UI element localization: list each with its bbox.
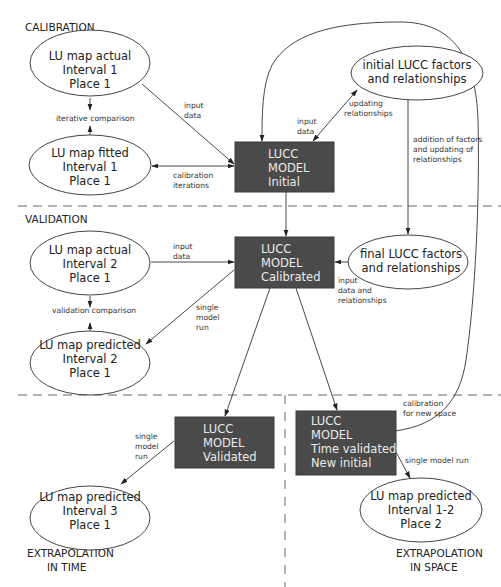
svg-text:LUCC: LUCC: [203, 422, 233, 436]
svg-text:relationships: relationships: [344, 109, 393, 118]
node-initial-factors: initial LUCC factors and relationships: [351, 46, 483, 100]
node-lu-map-fitted-1: LU map fitted Interval 1 Place 1: [29, 135, 151, 195]
svg-text:updating: updating: [349, 99, 383, 108]
svg-text:data: data: [297, 127, 314, 136]
svg-text:input: input: [297, 117, 317, 126]
svg-text:Time validated: Time validated: [310, 442, 396, 456]
edge-single-run-1: [146, 270, 234, 344]
svg-text:New initial: New initial: [311, 456, 371, 470]
label-iterative-comparison: iterative comparison: [56, 114, 135, 123]
svg-text:input: input: [184, 101, 204, 110]
svg-text:run: run: [196, 323, 209, 332]
svg-text:single: single: [196, 303, 219, 312]
label-input-data-1: input data: [184, 101, 204, 120]
node-model-validated: LUCC MODEL Validated: [175, 417, 274, 468]
svg-text:MODEL: MODEL: [261, 256, 303, 270]
svg-text:calibration: calibration: [403, 399, 443, 408]
label-updating-relationships: updating relationships: [344, 99, 393, 118]
diagram-canvas: CALIBRATION VALIDATION EXTRAPOLATION IN …: [0, 0, 501, 587]
svg-text:LUCC: LUCC: [311, 414, 341, 428]
svg-text:Initial: Initial: [268, 175, 300, 189]
svg-text:MODEL: MODEL: [203, 436, 245, 450]
section-extrapolation-space-1: EXTRAPOLATION: [396, 547, 483, 559]
label-input-data-3: input data: [173, 242, 193, 261]
svg-text:LUCC: LUCC: [268, 147, 298, 161]
svg-text:LUCC: LUCC: [261, 242, 291, 256]
label-calibration-iterations: calibration iterations: [173, 171, 213, 190]
svg-text:and relationships: and relationships: [368, 72, 467, 86]
svg-text:Interval 2: Interval 2: [62, 257, 117, 271]
svg-text:LU map actual: LU map actual: [49, 49, 132, 63]
svg-text:LU map predicted: LU map predicted: [39, 490, 141, 504]
svg-text:for new space: for new space: [403, 409, 457, 418]
svg-text:Interval 1: Interval 1: [62, 63, 117, 77]
edge-calibrated-validated: [225, 288, 270, 416]
node-lu-map-predicted-12: LU map predicted Interval 1-2 Place 2: [360, 478, 482, 542]
section-extrapolation-space-2: IN SPACE: [410, 561, 458, 573]
edge-input-data-1: [142, 84, 234, 164]
svg-text:Place 1: Place 1: [69, 366, 111, 380]
node-model-calibrated: LUCC MODEL Calibrated: [235, 237, 334, 288]
section-validation: VALIDATION: [25, 213, 88, 225]
node-lu-map-predicted-2: LU map predicted Interval 2 Place 1: [30, 331, 150, 395]
svg-text:LU map predicted: LU map predicted: [370, 489, 472, 503]
svg-text:MODEL: MODEL: [311, 428, 353, 442]
svg-text:data: data: [184, 111, 201, 120]
svg-text:Place 1: Place 1: [69, 271, 111, 285]
svg-text:model: model: [196, 313, 220, 322]
svg-text:Place 1: Place 1: [69, 174, 111, 188]
svg-text:LU map actual: LU map actual: [49, 243, 132, 257]
label-addition-factors: addition of factors and updating of rela…: [413, 135, 482, 164]
label-single-run-3: single model run: [405, 456, 469, 465]
node-lu-map-actual-1: LU map actual Interval 1 Place 1: [30, 30, 150, 96]
svg-text:input: input: [173, 242, 193, 251]
node-model-initial: LUCC MODEL Initial: [235, 142, 334, 192]
svg-text:Place 1: Place 1: [69, 518, 111, 532]
svg-text:iterations: iterations: [173, 181, 209, 190]
node-model-time-validated: LUCC MODEL Time validated New initial: [296, 411, 396, 475]
node-lu-map-predicted-3: LU map predicted Interval 3 Place 1: [30, 486, 150, 550]
svg-text:and updating of: and updating of: [413, 145, 474, 154]
svg-text:data: data: [173, 252, 190, 261]
svg-text:Interval 1-2: Interval 1-2: [388, 503, 454, 517]
svg-text:LU map fitted: LU map fitted: [51, 146, 129, 160]
label-validation-comparison: validation comparison: [52, 306, 136, 315]
svg-text:Validated: Validated: [203, 450, 257, 464]
svg-text:MODEL: MODEL: [268, 161, 310, 175]
label-calibration-new-space: calibration for new space: [403, 399, 457, 418]
svg-text:input: input: [338, 276, 358, 285]
svg-text:single: single: [135, 432, 158, 441]
section-extrapolation-time-2: IN TIME: [47, 561, 87, 573]
svg-text:calibration: calibration: [173, 171, 213, 180]
label-single-run-1: single model run: [196, 303, 220, 332]
svg-text:Place 2: Place 2: [400, 517, 442, 531]
svg-text:Calibrated: Calibrated: [261, 270, 320, 284]
node-final-factors: final LUCC factors and relationships: [348, 235, 468, 289]
lucc-modeling-diagram: CALIBRATION VALIDATION EXTRAPOLATION IN …: [0, 0, 501, 587]
svg-text:and relationships: and relationships: [362, 261, 461, 275]
svg-text:relationships: relationships: [338, 296, 387, 305]
svg-text:model: model: [135, 442, 159, 451]
svg-text:addition of factors: addition of factors: [413, 135, 482, 144]
svg-text:final LUCC factors: final LUCC factors: [360, 247, 462, 261]
svg-text:run: run: [135, 452, 148, 461]
svg-text:data and: data and: [338, 286, 372, 295]
svg-text:Place 1: Place 1: [69, 77, 111, 91]
svg-text:Interval 1: Interval 1: [62, 160, 117, 174]
svg-text:LU map predicted: LU map predicted: [39, 338, 141, 352]
edge-calibrated-time-validated: [296, 288, 337, 410]
svg-text:Interval 2: Interval 2: [62, 352, 117, 366]
svg-text:Interval 3: Interval 3: [62, 504, 117, 518]
label-input-data-2: input data: [297, 117, 317, 136]
svg-text:initial LUCC factors: initial LUCC factors: [363, 58, 472, 72]
svg-text:relationships: relationships: [413, 155, 462, 164]
node-lu-map-actual-2: LU map actual Interval 2 Place 1: [30, 231, 150, 295]
